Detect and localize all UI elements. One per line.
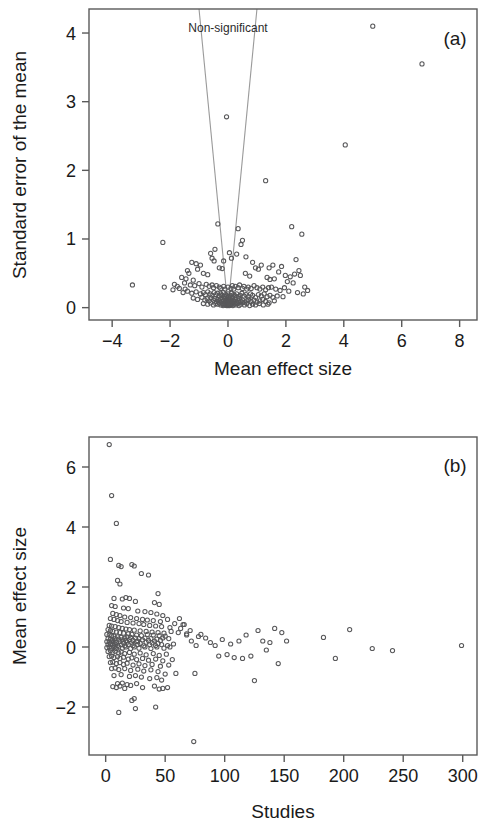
- panel-a-data-points: [130, 24, 424, 308]
- data-point: [133, 706, 137, 710]
- data-point: [249, 654, 253, 658]
- data-point: [261, 303, 265, 307]
- data-point: [136, 667, 140, 671]
- data-point: [189, 639, 193, 643]
- data-point: [148, 623, 152, 627]
- data-point: [140, 656, 144, 660]
- data-point: [277, 270, 281, 274]
- data-point: [192, 739, 196, 743]
- panel-b-canvas: 050100150200250300 −20246 Studies Mean e…: [0, 400, 487, 823]
- data-point: [133, 673, 137, 677]
- data-point: [157, 653, 161, 657]
- panel-b-label: (b): [443, 455, 466, 476]
- panel-a-canvas: −4−202468 01234 Mean effect size Standar…: [0, 0, 487, 400]
- data-point: [244, 633, 248, 637]
- data-point: [162, 646, 166, 650]
- data-point: [193, 671, 197, 675]
- data-point: [145, 618, 149, 622]
- panel-b-y-tick-labels: −20246: [55, 458, 76, 718]
- data-point: [174, 671, 178, 675]
- x-tick-label: 0: [223, 331, 233, 351]
- data-point: [135, 658, 139, 662]
- data-point: [144, 653, 148, 657]
- panel-a-y-tick-labels: 01234: [66, 24, 76, 319]
- x-tick-label: 2: [281, 331, 291, 351]
- y-tick-label: −2: [55, 698, 76, 718]
- data-point: [170, 658, 174, 662]
- data-point: [154, 657, 158, 661]
- data-point: [152, 684, 156, 688]
- data-point: [140, 685, 144, 689]
- data-point: [118, 582, 122, 586]
- data-point: [459, 643, 463, 647]
- data-point: [140, 617, 144, 621]
- data-point: [142, 622, 146, 626]
- data-point: [267, 266, 271, 270]
- data-point: [117, 710, 121, 714]
- data-point: [288, 275, 292, 279]
- data-point: [161, 659, 165, 663]
- data-point: [370, 646, 374, 650]
- data-point: [264, 648, 268, 652]
- data-point: [119, 673, 123, 677]
- y-tick-label: 1: [66, 229, 76, 249]
- data-point: [194, 290, 198, 294]
- data-point: [239, 242, 243, 246]
- data-point: [285, 279, 289, 283]
- data-point: [321, 635, 325, 639]
- data-point: [420, 62, 424, 66]
- data-point: [135, 682, 139, 686]
- y-tick-label: 0: [66, 638, 76, 658]
- data-point: [164, 652, 168, 656]
- data-point: [155, 612, 159, 616]
- y-tick-label: 4: [66, 518, 76, 538]
- data-point: [156, 670, 160, 674]
- data-point: [138, 629, 142, 633]
- data-point: [176, 631, 180, 635]
- data-point: [272, 277, 276, 281]
- data-point: [161, 613, 165, 617]
- data-point: [252, 679, 256, 683]
- data-point: [154, 705, 158, 709]
- data-point: [343, 143, 347, 147]
- data-point: [123, 615, 127, 619]
- x-tick-label: 0: [101, 766, 111, 786]
- data-point: [282, 286, 286, 290]
- data-point: [232, 655, 236, 659]
- data-point: [132, 628, 136, 632]
- data-point: [136, 609, 140, 613]
- data-point: [135, 616, 139, 620]
- data-point: [278, 288, 282, 292]
- data-point: [148, 676, 152, 680]
- data-point: [195, 267, 199, 271]
- data-point: [149, 610, 153, 614]
- data-point: [303, 285, 307, 289]
- data-point: [290, 225, 294, 229]
- data-point: [236, 227, 240, 231]
- data-point: [169, 629, 173, 633]
- data-point: [206, 273, 210, 277]
- data-point: [194, 643, 198, 647]
- data-point: [139, 675, 143, 679]
- data-point: [248, 274, 252, 278]
- data-point: [155, 676, 159, 680]
- y-tick-label: 2: [66, 578, 76, 598]
- panel-a-label: (a): [443, 28, 466, 49]
- panel-b-data-points: [105, 442, 464, 743]
- data-point: [157, 602, 161, 606]
- data-point: [161, 240, 165, 244]
- data-point: [251, 260, 255, 264]
- data-point: [281, 295, 285, 299]
- data-point: [165, 617, 169, 621]
- data-point: [274, 287, 278, 291]
- data-point: [179, 626, 183, 630]
- data-point: [188, 283, 192, 287]
- data-point: [235, 252, 239, 256]
- panel-a-x-tick-labels: −4−202468: [102, 331, 465, 351]
- x-tick-label: −2: [160, 331, 181, 351]
- data-point: [268, 640, 272, 644]
- x-tick-label: 6: [397, 331, 407, 351]
- x-tick-label: −4: [102, 331, 123, 351]
- y-tick-label: 4: [66, 24, 76, 44]
- data-point: [195, 297, 199, 301]
